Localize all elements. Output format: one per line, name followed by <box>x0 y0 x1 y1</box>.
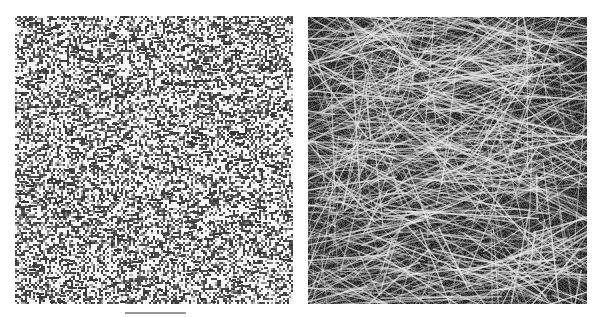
noise-texture-panel <box>15 16 293 304</box>
scale-bar <box>125 312 186 314</box>
fiber-network-panel <box>308 17 587 304</box>
